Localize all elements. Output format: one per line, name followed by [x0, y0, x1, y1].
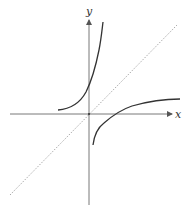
- x-axis-label: x: [175, 108, 182, 121]
- exponential-curve: [58, 22, 103, 110]
- function-inverse-diagram: x y: [0, 0, 188, 209]
- identity-line: [10, 25, 177, 195]
- logarithm-curve: [93, 99, 180, 145]
- y-axis-label: y: [85, 5, 93, 18]
- origin-point: [88, 113, 90, 115]
